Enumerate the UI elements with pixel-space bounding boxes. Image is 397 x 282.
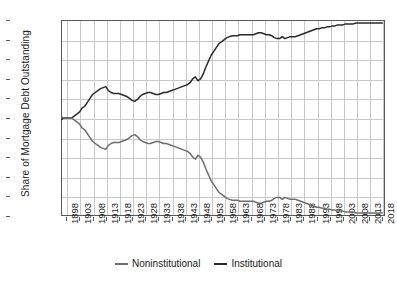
y-tick-mark bbox=[6, 177, 10, 178]
x-tick-mark bbox=[79, 217, 80, 221]
x-tick-mark bbox=[356, 217, 357, 221]
series-line-institutional bbox=[61, 23, 382, 120]
y-axis-title: Share of Mortgage Debt Outstanding bbox=[20, 4, 31, 224]
x-tick-mark bbox=[93, 217, 94, 221]
y-tick-mark bbox=[6, 98, 10, 99]
x-tick-mark bbox=[119, 217, 120, 221]
y-tick-mark bbox=[6, 196, 10, 197]
x-tick-mark bbox=[198, 217, 199, 221]
x-tick-mark bbox=[277, 217, 278, 221]
x-tick-mark bbox=[251, 217, 252, 221]
x-tick-mark bbox=[317, 217, 318, 221]
x-tick-mark bbox=[290, 217, 291, 221]
y-tick-mark bbox=[6, 59, 10, 60]
x-tick-mark bbox=[145, 217, 146, 221]
y-tick-mark bbox=[6, 20, 10, 21]
y-tick-mark bbox=[6, 40, 10, 41]
x-tick-mark bbox=[132, 217, 133, 221]
x-tick-mark bbox=[330, 217, 331, 221]
x-tick-mark bbox=[106, 217, 107, 221]
x-tick-mark bbox=[66, 217, 67, 221]
x-tick-mark bbox=[264, 217, 265, 221]
legend-label: Institutional bbox=[231, 258, 282, 269]
y-tick-mark bbox=[6, 118, 10, 119]
x-tick-mark bbox=[211, 217, 212, 221]
x-tick-label: 2018 bbox=[386, 203, 396, 224]
x-tick-mark bbox=[237, 217, 238, 221]
y-tick-mark bbox=[6, 157, 10, 158]
x-tick-mark bbox=[382, 217, 383, 221]
x-tick-mark bbox=[224, 217, 225, 221]
legend-entry[interactable]: Noninstitutional bbox=[115, 258, 200, 269]
x-tick-mark bbox=[172, 217, 173, 221]
legend-label: Noninstitutional bbox=[132, 258, 200, 269]
legend-entry[interactable]: Institutional bbox=[214, 258, 282, 269]
x-tick-mark bbox=[158, 217, 159, 221]
x-tick-mark bbox=[343, 217, 344, 221]
x-tick-mark bbox=[369, 217, 370, 221]
y-tick-mark bbox=[6, 79, 10, 80]
series-line-noninstitutional bbox=[61, 116, 382, 213]
series-canvas bbox=[61, 20, 385, 216]
chart-legend: NoninstitutionalInstitutional bbox=[0, 258, 397, 269]
y-tick-mark bbox=[6, 216, 10, 217]
legend-line-icon bbox=[214, 263, 227, 265]
x-tick-mark bbox=[303, 217, 304, 221]
data-lines bbox=[61, 20, 385, 216]
x-tick-mark bbox=[185, 217, 186, 221]
chart-figure: Share of Mortgage Debt Outstanding 100%9… bbox=[0, 0, 397, 282]
y-tick-mark bbox=[6, 138, 10, 139]
legend-line-icon bbox=[115, 263, 128, 265]
